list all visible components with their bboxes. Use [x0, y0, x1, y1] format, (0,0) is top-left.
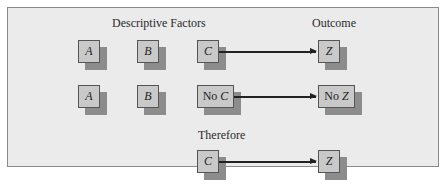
factor-a-node: A	[78, 40, 100, 63]
causal-arrow	[219, 51, 316, 53]
no-outcome-z-node: No Z	[318, 85, 355, 108]
no-cause-c-node: No C	[197, 85, 234, 108]
conclusion-arrow	[219, 161, 316, 163]
conclusion-cause-node: C	[197, 150, 219, 173]
no-prefix-label: No	[324, 89, 342, 104]
factor-a-label: A	[85, 89, 92, 104]
conclusion-outcome-node: Z	[318, 150, 340, 173]
cause-c-label: C	[204, 44, 212, 59]
therefore-label: Therefore	[198, 128, 245, 143]
cause-c-label: C	[204, 154, 212, 169]
factor-b-node: B	[137, 40, 159, 63]
cause-c-node: C	[197, 40, 219, 63]
outcome-z-label: Z	[342, 89, 349, 104]
factor-a-node: A	[78, 85, 100, 108]
factor-a-label: A	[85, 44, 92, 59]
factor-b-label: B	[144, 89, 151, 104]
outcome-z-label: Z	[326, 44, 333, 59]
factor-b-label: B	[144, 44, 151, 59]
causal-arrow	[234, 96, 316, 98]
no-prefix-label: No	[203, 89, 221, 104]
cause-c-label: C	[220, 89, 228, 104]
outcome-z-label: Z	[326, 154, 333, 169]
factor-b-node: B	[137, 85, 159, 108]
factors-header: Descriptive Factors	[112, 16, 206, 31]
outcome-z-node: Z	[318, 40, 340, 63]
outcome-header: Outcome	[312, 16, 356, 31]
